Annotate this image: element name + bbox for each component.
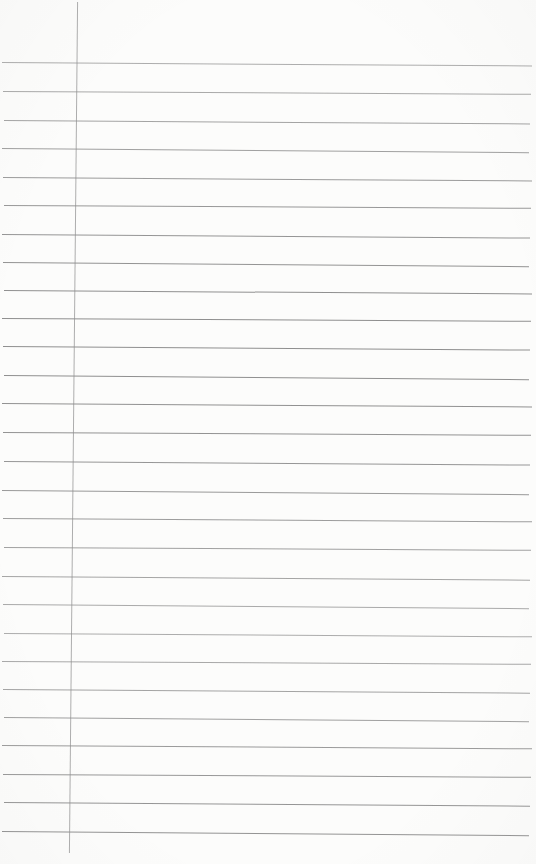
ruled-line <box>4 633 532 637</box>
ruled-line <box>3 518 532 522</box>
ruled-line <box>4 547 531 551</box>
ruled-line <box>3 346 530 351</box>
ruled-line <box>4 290 532 294</box>
ruled-line <box>2 318 531 322</box>
ruled-line <box>3 262 529 267</box>
ruled-line <box>2 62 532 67</box>
ruled-line <box>4 205 531 209</box>
ruled-line <box>4 717 529 722</box>
ruled-line <box>2 831 529 836</box>
ruled-line <box>4 461 530 466</box>
ruled-line <box>2 148 529 153</box>
ruled-line <box>2 576 530 581</box>
ruled-line <box>4 802 530 807</box>
ruled-line <box>2 403 532 407</box>
ruled-line <box>3 689 530 694</box>
ruled-line <box>3 432 531 436</box>
ruled-line <box>2 661 531 665</box>
ruled-line <box>3 177 532 182</box>
ruled-line <box>4 375 529 380</box>
ruled-line <box>2 490 529 495</box>
ruled-line <box>2 234 530 239</box>
ruled-line <box>3 604 529 609</box>
ruled-line <box>2 745 532 749</box>
ruled-line <box>3 774 531 778</box>
ruled-line <box>3 91 531 95</box>
notebook-page <box>0 0 536 864</box>
margin-line <box>69 2 78 853</box>
ruled-line <box>4 120 530 124</box>
